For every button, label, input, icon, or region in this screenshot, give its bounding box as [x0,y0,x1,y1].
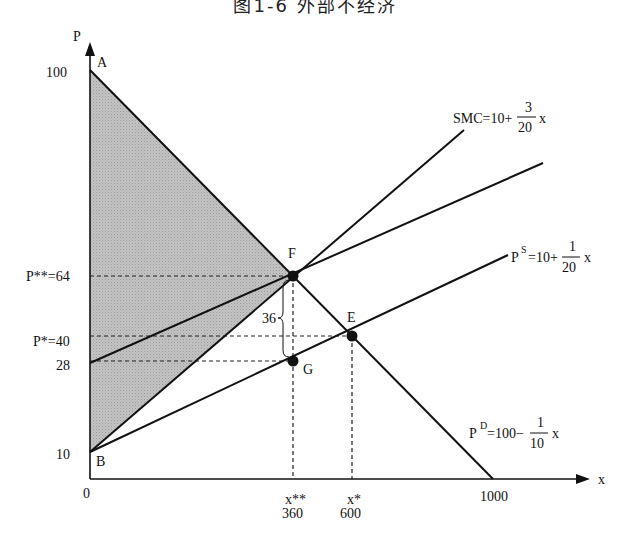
origin-label: 0 [83,486,90,501]
svg-text:x: x [584,250,591,265]
point-G [288,356,299,367]
label-E: E [347,310,356,325]
y-tick-10: 10 [56,447,70,462]
svg-text:1: 1 [569,239,576,254]
x-axis-label: x [598,472,605,487]
svg-text:SMC=10+: SMC=10+ [453,111,512,126]
svg-text:10: 10 [530,436,544,451]
y-axis-arrow-icon [85,42,95,56]
label-36: 36 [262,311,276,326]
svg-text:3: 3 [525,100,532,115]
y-tick-100: 100 [46,65,67,80]
svg-text:P: P [469,426,477,441]
point-F [288,271,299,282]
label-G: G [303,362,313,377]
label-A: A [97,55,108,70]
svg-text:P: P [511,250,519,265]
svg-text:20: 20 [562,260,576,275]
svg-text:x: x [552,426,559,441]
svg-text:=100−: =100− [487,426,524,441]
shaded-region-AFB [90,70,293,452]
brace-36 [278,280,289,357]
x-tick-x2star: x** [285,492,306,507]
x-tick-1000: 1000 [480,489,508,504]
x-tick-360: 360 [282,506,303,521]
label-B: B [96,454,105,469]
label-F: F [288,246,296,261]
x-tick-600: 600 [340,506,361,521]
svg-text:20: 20 [518,120,532,135]
x-axis-arrow-icon [576,474,590,484]
svg-text:S: S [521,244,527,255]
p-axis-label: P [73,29,81,44]
y-tick-28: 28 [56,358,70,373]
chart-canvas: P x 0 100 10 28 P*=40 P**=64 x** 360 x* … [0,0,630,542]
ps-equation: P S =10+ 1 20 x [511,239,591,275]
pd-equation: P D =100− 1 10 x [469,415,559,451]
y-tick-pstar: P*=40 [33,334,70,349]
y-tick-p2star: P**=64 [26,269,70,284]
x-tick-xstar: x* [347,492,361,507]
svg-text:1: 1 [537,415,544,430]
smc-equation: SMC=10+ 3 20 x [453,100,546,135]
svg-text:x: x [539,111,546,126]
point-E [347,331,358,342]
svg-text:=10+: =10+ [528,250,558,265]
